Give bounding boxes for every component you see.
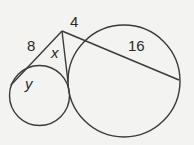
big-circle xyxy=(68,25,180,137)
small-circle xyxy=(10,66,70,126)
label-segment-4: 4 xyxy=(70,14,78,29)
geometry-diagram: 8 4 16 x y xyxy=(0,0,194,145)
diagram-canvas xyxy=(0,0,194,145)
common-tangent-segment xyxy=(62,31,68,82)
secant-big-circle xyxy=(62,31,179,80)
label-segment-8: 8 xyxy=(27,38,35,53)
label-variable-x: x xyxy=(51,45,59,60)
label-variable-y: y xyxy=(25,76,33,91)
label-segment-16: 16 xyxy=(128,38,145,53)
